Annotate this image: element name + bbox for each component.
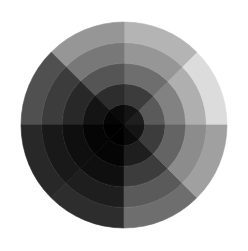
polar-heatmap — [0, 0, 248, 251]
